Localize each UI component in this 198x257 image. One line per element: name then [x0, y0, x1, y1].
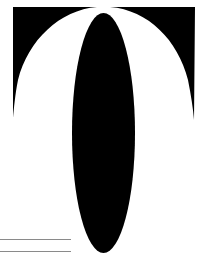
horizontal-rule-1 [0, 239, 71, 240]
graphic-canvas [0, 0, 198, 257]
center-ellipse [72, 13, 135, 253]
horizontal-rule-2 [0, 251, 71, 252]
